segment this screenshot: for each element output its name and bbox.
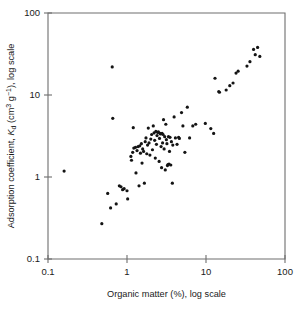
data-point <box>163 135 166 138</box>
data-point <box>151 148 154 151</box>
x-axis-tick-labels: 0.1110100 <box>41 266 293 277</box>
data-point <box>148 153 151 156</box>
data-point <box>135 149 138 152</box>
data-point <box>153 139 156 142</box>
data-point <box>162 118 165 121</box>
data-point <box>158 160 161 163</box>
data-point <box>165 142 168 145</box>
data-point <box>175 143 178 146</box>
y-tick-label: 0.1 <box>27 253 40 264</box>
data-point <box>137 184 140 187</box>
data-point <box>164 123 167 126</box>
y-axis-title-text: Adsorption coefficient, Kd (cm3 g−1), lo… <box>5 44 18 229</box>
data-point <box>109 206 112 209</box>
data-point <box>155 143 158 146</box>
data-point <box>145 152 148 155</box>
data-point <box>248 60 251 63</box>
data-point <box>213 77 216 80</box>
data-point <box>154 157 157 160</box>
data-point <box>218 91 221 94</box>
data-point <box>188 136 191 139</box>
data-point <box>258 55 261 58</box>
y-tick-label: 1 <box>35 171 40 182</box>
data-point <box>183 151 186 154</box>
data-point <box>252 48 255 51</box>
data-point <box>170 140 173 143</box>
data-point <box>161 141 164 144</box>
data-point <box>204 122 207 125</box>
data-point <box>165 138 168 141</box>
data-point <box>129 155 132 158</box>
data-point <box>168 136 171 139</box>
data-point <box>256 46 259 49</box>
data-point <box>158 137 161 140</box>
data-point <box>225 88 228 91</box>
scatter-plot-figure: 0.1110100 0.1110100 Organic matter (%), … <box>0 0 298 309</box>
data-point <box>131 151 134 154</box>
data-point <box>140 161 143 164</box>
data-point <box>180 111 183 114</box>
data-point <box>140 142 143 145</box>
data-point <box>237 70 240 73</box>
data-point <box>178 137 181 140</box>
data-point <box>174 136 177 139</box>
data-point <box>231 81 234 84</box>
data-point <box>228 84 231 87</box>
data-point <box>111 117 114 120</box>
data-point <box>171 182 174 185</box>
data-point <box>100 222 103 225</box>
data-point <box>181 124 184 127</box>
data-point <box>106 192 109 195</box>
data-point <box>111 65 114 68</box>
data-point <box>126 197 129 200</box>
data-point <box>191 124 194 127</box>
data-point <box>147 126 150 129</box>
data-point <box>115 202 118 205</box>
y-tick-label: 10 <box>29 89 40 100</box>
data-point <box>147 141 150 144</box>
data-point <box>123 187 126 190</box>
x-tick-label: 1 <box>124 266 129 277</box>
data-point <box>155 134 158 137</box>
data-point <box>63 170 66 173</box>
data-point <box>139 152 142 155</box>
data-point <box>186 106 189 109</box>
data-point <box>132 126 135 129</box>
data-point <box>149 137 152 140</box>
data-point <box>119 185 122 188</box>
data-point <box>134 171 137 174</box>
data-point <box>142 150 145 153</box>
data-point <box>152 124 155 127</box>
plot-frame <box>48 13 285 259</box>
x-tick-label: 0.1 <box>41 266 54 277</box>
data-point <box>168 150 171 153</box>
data-point <box>169 163 172 166</box>
data-point <box>164 168 167 171</box>
data-point <box>143 182 146 185</box>
x-tick-label: 10 <box>201 266 212 277</box>
data-point <box>144 140 147 143</box>
x-axis-title: Organic matter (%), log scale <box>107 289 226 299</box>
y-tick-label: 100 <box>24 7 40 18</box>
data-point <box>130 159 133 162</box>
data-point <box>212 132 215 135</box>
data-point <box>171 143 174 146</box>
chart-canvas: 0.1110100 0.1110100 Organic matter (%), … <box>0 0 298 309</box>
data-point <box>209 127 212 130</box>
data-point <box>160 166 163 169</box>
data-point-group <box>63 46 262 225</box>
data-point <box>173 115 176 118</box>
data-point <box>245 65 248 68</box>
data-point <box>194 123 197 126</box>
y-axis-title: Adsorption coefficient, Kd (cm3 g−1), lo… <box>5 44 18 229</box>
data-point <box>144 136 147 139</box>
data-point <box>159 145 162 148</box>
data-point <box>163 147 166 150</box>
y-axis-tick-labels: 0.1110100 <box>24 7 40 264</box>
data-point <box>125 189 128 192</box>
data-point <box>254 53 257 56</box>
x-tick-label: 100 <box>277 266 293 277</box>
